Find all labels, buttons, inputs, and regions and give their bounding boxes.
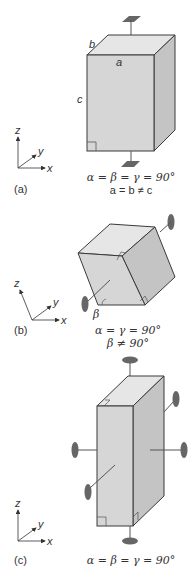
axis-label-z: z — [14, 124, 21, 136]
panel-b: β z y x (b) α = γ = 90° β ≠ 90° — [13, 214, 175, 350]
crystal-systems-diagram: b a c z y x (a) α = β = γ = 90° a = b ≠ … — [0, 0, 196, 569]
axis-label-z: z — [14, 497, 21, 509]
angle-condition-b-2: β ≠ 90° — [106, 337, 149, 350]
front-face — [87, 55, 154, 151]
front-face — [97, 406, 133, 526]
axes-a: z y x — [14, 124, 53, 174]
panel-label-a: (a) — [14, 183, 27, 195]
oval-mount-bottom — [122, 538, 138, 545]
axis-label-x: x — [46, 535, 53, 547]
length-condition-a: a = b ≠ c — [110, 184, 153, 196]
edge-label-c: c — [77, 93, 83, 105]
angle-label-beta: β — [92, 308, 99, 321]
axis-label-x: x — [46, 162, 53, 174]
square-mount-bottom — [121, 161, 140, 167]
axis-label-y: y — [52, 296, 60, 308]
panel-label-c: (c) — [14, 554, 27, 566]
oval-mount-lower-left — [85, 484, 92, 500]
axis-label-x: x — [60, 314, 67, 326]
oval-mount-left — [72, 442, 79, 458]
angle-condition-a: α = β = γ = 90° — [87, 171, 176, 184]
panel-label-b: (b) — [14, 324, 27, 336]
oval-mount-lower — [82, 296, 89, 312]
axes-b: z y x — [13, 277, 67, 326]
angle-condition-c: α = β = γ = 90° — [87, 554, 176, 567]
axis-label-y: y — [37, 518, 45, 530]
edge-label-b: b — [89, 38, 95, 50]
panel-c: z y x (c) α = β = γ = 90° — [14, 357, 188, 568]
oval-mount-top — [122, 357, 138, 364]
angle-condition-b: α = γ = 90° — [95, 324, 161, 337]
edge-label-a: a — [116, 56, 122, 68]
panel-a: b a c z y x (a) α = β = γ = 90° a = b ≠ … — [14, 16, 175, 196]
oval-mount-upper-right — [173, 391, 180, 407]
axis-label-z: z — [13, 277, 20, 289]
side-face — [154, 35, 175, 151]
axes-c: z y x — [14, 497, 53, 547]
axis-label-y: y — [37, 145, 45, 157]
oval-mount-right — [181, 442, 188, 458]
